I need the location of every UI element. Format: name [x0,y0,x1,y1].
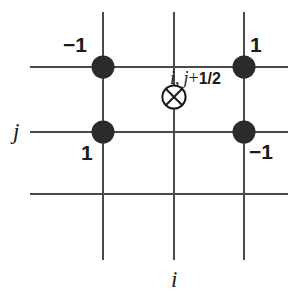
node-value-bottom-left: 1 [81,142,93,163]
node-dot-top-right [233,56,256,79]
grid-line-horizontal-3 [30,193,288,195]
node-dot-bottom-left [92,121,115,144]
crossed-circle-label: i,j+1/2 [170,69,221,87]
grid-stencil-figure: −1 1 1 −1 i,j+1/2 j i [0,0,298,298]
marker-label-prefix: i, [170,68,180,88]
axis-label-j: j [13,120,19,143]
marker-label-fraction: 1/2 [199,70,221,87]
marker-label-operator: + [189,68,199,88]
node-dot-top-left [92,56,115,79]
node-value-bottom-right: −1 [249,141,273,162]
node-value-top-right: 1 [250,34,262,55]
node-value-top-left: −1 [63,34,87,55]
axis-label-i: i [171,268,177,291]
grid-line-vertical-2 [173,12,175,260]
